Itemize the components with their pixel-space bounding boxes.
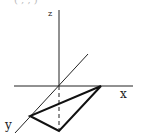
x-label: x [120, 88, 127, 100]
triangle [30, 86, 101, 131]
diagram-3d-axes: ( , , ) z x y [0, 0, 141, 138]
y-axis [15, 54, 88, 133]
y-label: y [5, 119, 12, 131]
axes-svg [0, 0, 141, 138]
z-label: z [48, 8, 52, 20]
